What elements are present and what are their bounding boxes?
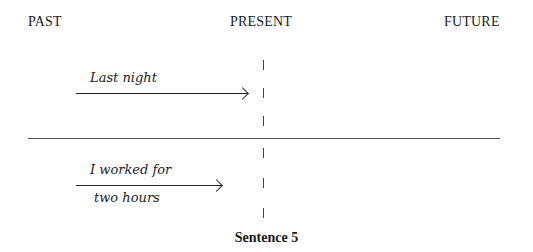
divider-line — [28, 138, 500, 139]
annotation-i-worked-for: I worked for — [90, 162, 171, 177]
label-present: PRESENT — [230, 14, 292, 30]
present-tick — [263, 60, 264, 70]
present-tick — [263, 116, 264, 126]
present-tick — [263, 208, 264, 218]
label-past: PAST — [28, 14, 62, 30]
present-tick — [263, 148, 264, 158]
annotation-last-night: Last night — [90, 70, 157, 85]
annotation-two-hours: two hours — [94, 190, 160, 205]
duration-arrow — [76, 185, 222, 186]
present-tick — [263, 88, 264, 98]
arrowhead-icon — [210, 179, 223, 192]
label-future: FUTURE — [444, 14, 500, 30]
arrowhead-icon — [236, 87, 249, 100]
duration-arrow — [76, 93, 248, 94]
present-tick — [263, 178, 264, 188]
caption: Sentence 5 — [0, 230, 533, 246]
